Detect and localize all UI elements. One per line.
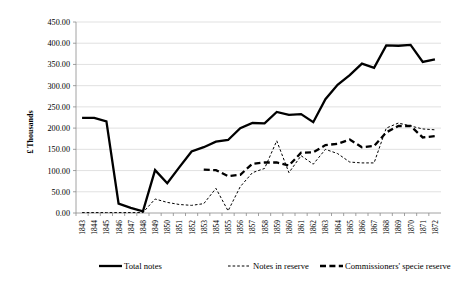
x-tick-label: 1860 — [285, 220, 294, 235]
x-axis-tick-labels: 1843184418451846184718481849185018511852… — [78, 220, 440, 235]
y-tick-label: 400.00 — [47, 39, 70, 48]
x-tick-label: 1847 — [127, 220, 136, 235]
x-tick-label: 1845 — [102, 220, 111, 235]
y-tick-label: 0.00 — [56, 209, 70, 218]
x-tick-label: 1862 — [309, 220, 318, 235]
x-axis-tickmarks — [76, 213, 429, 216]
x-tick-label: 1844 — [90, 220, 99, 235]
x-tick-label: 1851 — [175, 220, 184, 235]
x-tick-label: 1861 — [297, 220, 306, 235]
line-chart: £ Thousands 0.0050.00100.00150.00200.002… — [0, 0, 465, 283]
x-tick-label: 1848 — [139, 220, 148, 235]
x-tick-label: 1869 — [394, 220, 403, 235]
x-tick-label: 1867 — [370, 220, 379, 235]
y-tick-label: 100.00 — [47, 167, 70, 176]
y-axis-title: £ Thousands — [26, 110, 35, 153]
y-tick-label: 350.00 — [47, 60, 70, 69]
x-tick-label: 1865 — [346, 220, 355, 235]
x-tick-label: 1850 — [163, 220, 172, 235]
chart-figure: £ Thousands 0.0050.00100.00150.00200.002… — [0, 0, 465, 283]
x-tick-label: 1855 — [224, 220, 233, 235]
y-tick-label: 300.00 — [47, 82, 70, 91]
x-tick-label: 1856 — [236, 220, 245, 235]
series-line-commissioners-specie-reserve — [204, 126, 435, 176]
legend-label: Notes in reserve — [253, 261, 309, 271]
x-tick-label: 1849 — [151, 220, 160, 235]
x-tick-label: 1872 — [431, 220, 440, 235]
x-tick-label: 1870 — [407, 220, 416, 235]
x-tick-label: 1858 — [261, 220, 270, 235]
x-tick-label: 1846 — [115, 220, 124, 235]
x-tick-label: 1857 — [248, 220, 257, 235]
y-tick-label: 250.00 — [47, 103, 70, 112]
x-tick-label: 1868 — [382, 220, 391, 235]
x-tick-label: 1852 — [188, 220, 197, 235]
x-tick-label: 1864 — [334, 220, 343, 235]
legend-label: Commissioners' specie reserve — [345, 261, 451, 271]
x-tick-label: 1843 — [78, 220, 87, 235]
x-tick-label: 1871 — [419, 220, 428, 235]
x-tick-label: 1863 — [321, 220, 330, 235]
legend-label: Total notes — [124, 261, 162, 271]
y-tick-label: 50.00 — [52, 188, 70, 197]
x-tick-label: 1854 — [212, 220, 221, 235]
y-tick-label: 200.00 — [47, 124, 70, 133]
x-tick-label: 1859 — [273, 220, 282, 235]
x-tick-label: 1866 — [358, 220, 367, 235]
chart-legend: Total notesNotes in reserveCommissioners… — [99, 261, 451, 271]
y-tick-label: 450.00 — [47, 18, 70, 27]
y-gridlines — [73, 22, 441, 213]
x-tick-label: 1853 — [200, 220, 209, 235]
y-tick-label: 150.00 — [47, 145, 70, 154]
y-axis-tick-labels: 0.0050.00100.00150.00200.00250.00300.003… — [47, 18, 70, 218]
